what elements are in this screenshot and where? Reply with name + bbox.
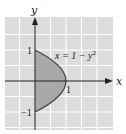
equation-lhs: x = 1 − y	[54, 50, 93, 61]
curve-equation: x = 1 − y2	[54, 49, 96, 61]
y-tick-bottom: −1	[21, 107, 32, 118]
equation-exponent: 2	[92, 49, 96, 57]
x-tick-one: 1	[66, 84, 71, 95]
plot-canvas: y x 1 −1 1 x = 1 − y2	[0, 0, 126, 134]
x-axis-label: x	[116, 75, 123, 88]
y-axis-label: y	[30, 4, 38, 17]
y-tick-top: 1	[27, 45, 32, 56]
